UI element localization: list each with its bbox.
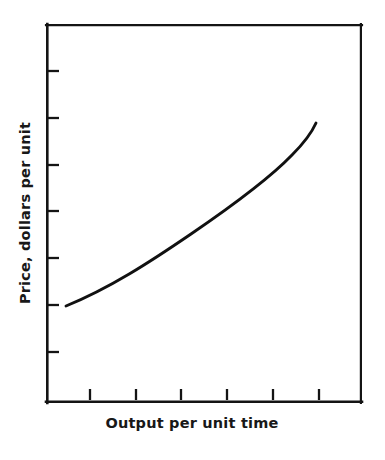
plot-frame [46,24,362,403]
supply-curve-figure: Output per unit time Price, dollars per … [0,0,385,460]
chart-canvas: Output per unit time Price, dollars per … [0,0,385,460]
x-axis-label: Output per unit time [105,415,278,431]
y-axis-ticks [48,71,59,352]
y-axis-label: Price, dollars per unit [17,122,33,304]
supply-curve-line [66,123,316,306]
x-axis-ticks [90,389,319,400]
